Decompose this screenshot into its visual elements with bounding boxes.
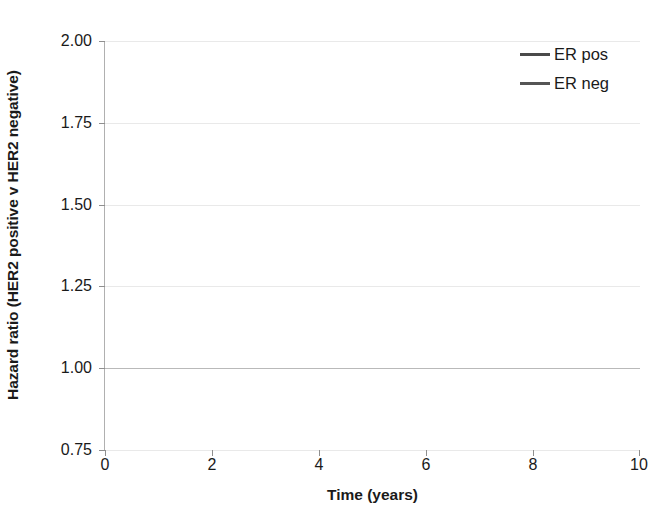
x-tick-label: 8 [511,456,555,474]
gridline-0-75 [105,450,640,451]
y-tick-label: 1.50 [32,196,92,214]
x-tick-label: 4 [297,456,341,474]
legend-item-er-neg[interactable]: ER neg [520,69,650,98]
y-tick-label: 1.25 [32,277,92,295]
gridline-1-75 [105,123,640,124]
legend-label: ER neg [554,74,609,93]
y-axis-title: Hazard ratio (HER2 positive v HER2 negat… [0,0,26,470]
plot-background [105,41,640,450]
legend-label: ER pos [554,45,608,64]
y-tick-label: 2.00 [32,32,92,50]
x-tick-label: 0 [83,456,127,474]
y-tick-mark [99,41,105,42]
x-axis-tick-labels: 0 2 4 6 8 10 [105,456,640,480]
gridline-1-25 [105,286,640,287]
gridline-1-50 [105,205,640,206]
x-axis-title: Time (years) [105,486,640,504]
gridline-1-00 [105,368,640,369]
x-tick-label: 6 [404,456,448,474]
x-tick-label: 2 [190,456,234,474]
legend-item-er-pos[interactable]: ER pos [520,40,650,69]
y-tick-mark [99,123,105,124]
y-tick-mark [99,368,105,369]
y-tick-label: 1.00 [32,359,92,377]
chart-figure: Hazard ratio (HER2 positive v HER2 negat… [0,0,659,526]
y-axis-tick-labels: 0.75 1.00 1.25 1.50 1.75 2.00 [30,0,92,526]
y-tick-mark [99,205,105,206]
plot-area [105,41,640,450]
legend-swatch-icon [520,53,550,56]
legend-swatch-icon [520,82,550,85]
y-axis-spine [104,41,105,450]
x-tick-label: 10 [617,456,659,474]
y-tick-label: 1.75 [32,114,92,132]
chart-legend: ER pos ER neg [520,40,650,98]
y-tick-mark [99,286,105,287]
